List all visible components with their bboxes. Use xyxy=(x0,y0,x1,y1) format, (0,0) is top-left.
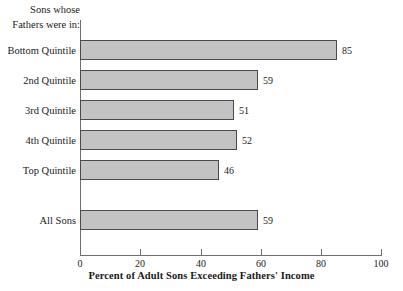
bar-row: 4th Quintile 52 xyxy=(80,130,237,150)
x-axis-tick-label: 40 xyxy=(196,258,206,269)
category-label: 4th Quintile xyxy=(26,135,76,146)
x-axis-tick-label: 20 xyxy=(135,258,145,269)
category-label: Top Quintile xyxy=(23,165,76,176)
bar xyxy=(80,100,234,120)
category-label: All Sons xyxy=(40,215,76,226)
x-axis-tick xyxy=(321,249,322,255)
bar-row: 2nd Quintile 59 xyxy=(80,70,258,90)
x-axis-tick xyxy=(140,249,141,255)
x-axis-tick xyxy=(261,249,262,255)
bar xyxy=(80,40,337,60)
group-header-line-2: Fathers were in: xyxy=(0,17,80,32)
x-axis-tick-label: 80 xyxy=(316,258,326,269)
plot-area: 0 20 40 60 80 100 Bottom Quintile 85 2nd… xyxy=(80,20,382,255)
category-label: 3rd Quintile xyxy=(25,105,76,116)
bar-value-label: 59 xyxy=(263,75,273,86)
bar-value-label: 59 xyxy=(263,215,273,226)
x-axis-tick xyxy=(80,249,81,255)
bar-row: 3rd Quintile 51 xyxy=(80,100,234,120)
bar xyxy=(80,210,258,230)
category-label: 2nd Quintile xyxy=(23,75,76,86)
bar-value-label: 85 xyxy=(342,45,352,56)
x-axis-tick xyxy=(381,249,382,255)
x-axis-tick-label: 60 xyxy=(256,258,266,269)
bar xyxy=(80,70,258,90)
x-axis-tick xyxy=(201,249,202,255)
bar xyxy=(80,130,237,150)
bar-value-label: 46 xyxy=(224,165,234,176)
x-axis-title: Percent of Adult Sons Exceeding Fathers'… xyxy=(0,270,403,281)
bar xyxy=(80,160,219,180)
x-axis-tick-label: 100 xyxy=(374,258,389,269)
group-header-line-1: Sons whose xyxy=(0,2,80,17)
bar-row: All Sons 59 xyxy=(80,210,258,230)
bar-row: Bottom Quintile 85 xyxy=(80,40,337,60)
bar-chart: Sons whose Fathers were in: 0 20 40 60 8… xyxy=(0,0,403,291)
x-axis-line xyxy=(80,255,382,256)
bar-value-label: 51 xyxy=(239,105,249,116)
bar-row: Top Quintile 46 xyxy=(80,160,219,180)
group-header: Sons whose Fathers were in: xyxy=(0,2,80,32)
x-axis-tick-label: 0 xyxy=(78,258,83,269)
category-label: Bottom Quintile xyxy=(7,45,76,56)
bar-value-label: 52 xyxy=(242,135,252,146)
